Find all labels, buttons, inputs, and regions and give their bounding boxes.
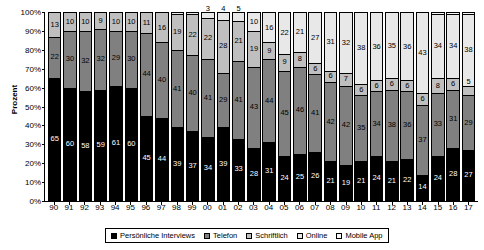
legend-item[interactable]: Mobile App (336, 231, 382, 240)
bar-column[interactable]: 3863521 (354, 12, 368, 201)
bar-segment-schriftlich[interactable]: 10 (125, 12, 139, 31)
bar-segment-persoenliche[interactable]: 21 (385, 161, 399, 201)
bar-column[interactable]: 3663424 (370, 12, 384, 201)
bar-column[interactable]: 103258 (79, 12, 93, 201)
bar-segment-online[interactable]: 38 (354, 12, 368, 84)
bar-segment-telefon[interactable]: 43 (247, 67, 261, 148)
bar-segment-persoenliche[interactable]: 22 (400, 159, 414, 201)
bar-segment-schriftlich[interactable]: 13 (48, 12, 62, 37)
bar-segment-telefon[interactable]: 38 (385, 90, 399, 162)
bar-segment-telefon[interactable]: 35 (354, 95, 368, 161)
bar-column[interactable]: 103060 (125, 12, 139, 201)
bar-segment-persoenliche[interactable]: 39 (171, 127, 185, 201)
bar-segment-persoenliche[interactable]: 60 (125, 88, 139, 201)
bar-segment-telefon[interactable]: 41 (308, 74, 322, 151)
bar-segment-online[interactable]: 16 (262, 12, 276, 42)
legend-item[interactable]: Schriftlich (246, 231, 288, 240)
bar-segment-schriftlich[interactable]: 19 (171, 14, 185, 50)
bar-segment-online[interactable]: 35 (385, 12, 399, 78)
bar-segment-telefon[interactable]: 41 (232, 61, 246, 138)
bar-column[interactable]: 10194328 (247, 12, 261, 201)
bar-segment-telefon[interactable]: 31 (446, 90, 460, 149)
bar-segment-online[interactable]: 34 (431, 14, 445, 78)
bar-segment-telefon[interactable]: 46 (293, 67, 307, 154)
bar-column[interactable]: 103060 (63, 12, 77, 201)
bar-segment-schriftlich[interactable]: 6 (308, 63, 322, 74)
bar-segment-telefon[interactable]: 44 (262, 59, 276, 142)
bar-segment-schriftlich[interactable]: 10 (79, 12, 93, 31)
bar-column[interactable]: 132265 (48, 12, 62, 201)
bar-column[interactable]: 194139 (171, 12, 185, 201)
bar-column[interactable]: 3463128 (446, 12, 460, 201)
bar-segment-online[interactable]: 5 (232, 12, 246, 21)
bar-segment-schriftlich[interactable]: 22 (201, 18, 215, 60)
bar-segment-schriftlich[interactable]: 28 (217, 20, 231, 73)
bar-column[interactable]: 4282939 (217, 12, 231, 201)
bar-segment-telefon[interactable]: 29 (217, 73, 231, 128)
bar-segment-online[interactable]: 36 (400, 12, 414, 80)
bar-segment-telefon[interactable]: 33 (431, 93, 445, 155)
bar-segment-online[interactable]: 4 (217, 12, 231, 20)
legend-item[interactable]: Telefon (204, 231, 237, 240)
bar-segment-online[interactable]: 38 (462, 14, 476, 86)
bar-segment-telefon[interactable]: 45 (278, 71, 292, 156)
bar-column[interactable]: 114445 (140, 12, 154, 201)
bar-segment-schriftlich[interactable]: 8 (293, 52, 307, 67)
bar-segment-schriftlich[interactable]: 10 (63, 12, 77, 31)
bar-segment-telefon[interactable]: 36 (400, 91, 414, 159)
bar-segment-schriftlich[interactable]: 6 (385, 78, 399, 89)
bar-column[interactable]: 3164221 (324, 12, 338, 201)
bar-segment-persoenliche[interactable]: 27 (462, 150, 476, 201)
bar-segment-schriftlich[interactable]: 16 (155, 12, 169, 42)
bar-segment-schriftlich[interactable]: 11 (140, 12, 154, 33)
bar-segment-telefon[interactable]: 42 (339, 86, 353, 165)
bar-column[interactable]: 164044 (155, 12, 169, 201)
legend-item[interactable]: Online (297, 231, 328, 240)
bar-segment-persoenliche[interactable]: 25 (293, 154, 307, 201)
bar-column[interactable]: 1694431 (262, 12, 276, 201)
bar-segment-schriftlich[interactable]: 6 (354, 84, 368, 95)
bar-column[interactable]: 3483324 (431, 12, 445, 201)
bar-segment-schriftlich[interactable]: 22 (186, 14, 200, 56)
bar-segment-telefon[interactable]: 22 (48, 37, 62, 79)
bar-column[interactable]: 3274219 (339, 12, 353, 201)
bar-segment-persoenliche[interactable]: 60 (63, 88, 77, 201)
bar-segment-telefon[interactable]: 40 (186, 55, 200, 131)
bar-segment-telefon[interactable]: 44 (140, 33, 154, 116)
bar-segment-online[interactable]: 10 (247, 12, 261, 31)
bar-segment-schriftlich[interactable]: 19 (247, 31, 261, 67)
bar-column[interactable]: 224037 (186, 12, 200, 201)
bar-segment-telefon[interactable]: 30 (125, 31, 139, 88)
bar-segment-persoenliche[interactable]: 33 (232, 139, 246, 201)
bar-segment-persoenliche[interactable]: 37 (186, 131, 200, 201)
bar-segment-schriftlich[interactable]: 6 (416, 93, 430, 104)
bar-column[interactable]: 102961 (109, 12, 123, 201)
bar-segment-online[interactable]: 31 (324, 12, 338, 71)
bar-segment-schriftlich[interactable]: 9 (278, 54, 292, 71)
bar-segment-schriftlich[interactable]: 9 (94, 12, 108, 29)
bar-segment-online[interactable]: 27 (308, 12, 322, 63)
bar-segment-telefon[interactable]: 32 (79, 31, 93, 91)
bar-column[interactable]: 3224134 (201, 12, 215, 201)
bar-segment-telefon[interactable]: 41 (201, 59, 215, 136)
bar-column[interactable]: 2294524 (278, 12, 292, 201)
bar-segment-persoenliche[interactable]: 44 (155, 118, 169, 201)
bar-column[interactable]: 5214133 (232, 12, 246, 201)
bar-column[interactable]: 93259 (94, 12, 108, 201)
bar-segment-telefon[interactable]: 32 (94, 29, 108, 89)
bar-segment-online[interactable]: 32 (339, 12, 353, 72)
bar-column[interactable]: 3663622 (400, 12, 414, 201)
bar-segment-telefon[interactable]: 30 (63, 31, 77, 88)
bar-segment-telefon[interactable]: 41 (171, 50, 185, 127)
bar-segment-persoenliche[interactable]: 24 (431, 156, 445, 201)
bar-segment-schriftlich[interactable]: 9 (262, 42, 276, 59)
bar-segment-persoenliche[interactable]: 39 (217, 127, 231, 201)
bar-segment-persoenliche[interactable]: 45 (140, 116, 154, 201)
bar-column[interactable]: 2764126 (308, 12, 322, 201)
bar-segment-schriftlich[interactable]: 5 (462, 86, 476, 95)
bar-segment-telefon[interactable]: 34 (370, 91, 384, 155)
bar-segment-schriftlich[interactable]: 8 (431, 78, 445, 93)
bar-segment-online[interactable]: 36 (370, 12, 384, 80)
bar-segment-schriftlich[interactable]: 6 (400, 80, 414, 91)
bar-segment-persoenliche[interactable]: 14 (416, 175, 430, 201)
